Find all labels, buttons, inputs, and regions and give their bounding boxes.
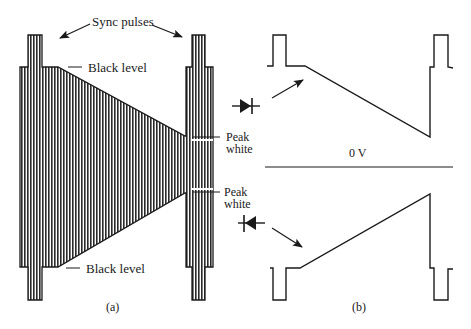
peak-white-bottom-label-line2: white (224, 198, 251, 210)
panel-b-waveforms (265, 35, 453, 300)
black-level-top-label: Black level (88, 61, 147, 74)
diode-forward-icon (232, 98, 260, 114)
top-clamped-waveform (267, 35, 453, 137)
caption-a: (a) (106, 301, 119, 313)
sync-arrow-left (60, 24, 90, 38)
zero-volt-label: 0 V (349, 147, 366, 159)
arrow-to-top-waveform (272, 80, 303, 98)
diagram-canvas (0, 0, 471, 329)
bottom-clamped-waveform (270, 194, 453, 300)
peak-white-top-label-line2: white (226, 143, 253, 155)
arrow-to-bottom-waveform (272, 228, 302, 247)
diode-reverse-icon (238, 215, 265, 232)
sync-pulses-label: Sync pulses (92, 15, 154, 28)
caption-b: (b) (352, 301, 366, 313)
sync-arrow-right (152, 25, 182, 37)
black-level-bottom-label: Black level (86, 262, 145, 275)
